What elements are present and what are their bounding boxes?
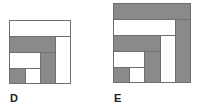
gray-column: [40, 52, 56, 84]
white-column: [160, 35, 176, 83]
mid-white-band: [113, 51, 145, 68]
gray-band: [9, 36, 56, 53]
mid-band: [9, 52, 41, 69]
figure-label-d: D: [10, 92, 18, 104]
small-gray-square: [113, 67, 130, 83]
figure-label-e: E: [114, 92, 121, 104]
gray-band: [113, 35, 161, 52]
right-column: [55, 36, 71, 84]
small-white-square: [129, 67, 145, 83]
figure-e: [113, 3, 191, 83]
gray-column: [144, 51, 161, 83]
top-gray-band: [113, 3, 191, 20]
figure-d: [9, 20, 71, 84]
right-gray-column: [175, 19, 191, 83]
top-band: [9, 20, 71, 37]
small-white-square: [25, 68, 41, 84]
small-gray-square: [9, 68, 26, 84]
white-band: [113, 19, 176, 36]
